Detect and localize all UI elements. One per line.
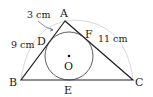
label-a: A xyxy=(59,7,69,20)
triangle-abc xyxy=(21,21,133,80)
measure-fc: 11 cm xyxy=(98,33,127,44)
label-e: E xyxy=(64,84,72,97)
center-point-o xyxy=(68,55,71,58)
measure-bd: 9 cm xyxy=(11,39,34,50)
measure-ad: 3 cm xyxy=(27,9,50,20)
label-f: F xyxy=(85,28,93,41)
label-c: C xyxy=(135,76,143,89)
label-d: D xyxy=(37,35,46,48)
outer-arc xyxy=(21,20,133,78)
incircle-diagram: A B C D E F O 3 cm 9 cm 11 cm xyxy=(0,0,153,97)
label-b: B xyxy=(9,76,17,89)
label-o: O xyxy=(64,60,73,73)
